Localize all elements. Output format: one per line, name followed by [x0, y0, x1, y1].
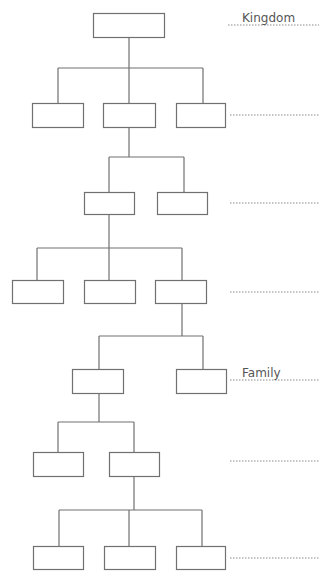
taxon-box[interactable]: [158, 193, 208, 215]
taxon-box[interactable]: [156, 281, 207, 304]
rank-label-kingdom: Kingdom: [242, 12, 295, 24]
taxon-box[interactable]: [94, 14, 165, 38]
taxon-box[interactable]: [34, 547, 84, 570]
classification-tree: [0, 0, 330, 576]
taxon-box[interactable]: [85, 281, 136, 304]
taxon-box[interactable]: [33, 104, 84, 128]
taxon-box[interactable]: [34, 453, 84, 477]
taxon-box[interactable]: [177, 370, 227, 394]
taxon-box[interactable]: [13, 281, 64, 304]
taxon-box[interactable]: [177, 104, 226, 128]
taxon-box[interactable]: [110, 453, 160, 477]
taxon-box[interactable]: [73, 370, 124, 394]
rank-label-family: Family: [242, 367, 281, 379]
taxon-box[interactable]: [104, 104, 156, 128]
taxon-box[interactable]: [105, 547, 156, 570]
taxon-box[interactable]: [85, 193, 135, 215]
taxon-box[interactable]: [177, 547, 226, 570]
